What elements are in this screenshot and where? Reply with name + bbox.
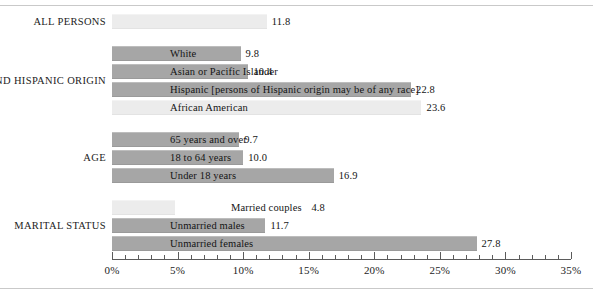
bar-category-label: White	[170, 47, 196, 61]
bar	[112, 200, 175, 215]
bar	[112, 100, 421, 115]
bar-value-label: 10.0	[248, 151, 267, 165]
axis-minor-tick	[269, 255, 270, 259]
axis-minor-tick	[151, 255, 152, 259]
axis-minor-tick	[492, 255, 493, 259]
bar-value-label: 9.7	[244, 133, 258, 147]
group-label: MARITAL STATUS	[14, 220, 106, 232]
bar-value-label: 11.8	[272, 15, 291, 29]
axis-minor-tick	[322, 255, 323, 259]
group-label: RACE AND HISPANIC ORIGIN	[0, 75, 106, 87]
axis-tick-label: 20%	[354, 264, 394, 276]
bar-category-label: Married couples	[231, 201, 302, 215]
axis-tick-label: 10%	[223, 264, 263, 276]
bar-value-label: 4.8	[311, 201, 325, 215]
group-label: AGE	[83, 152, 106, 164]
axis-minor-tick	[217, 255, 218, 259]
axis-major-tick	[178, 252, 179, 259]
axis-tick-label: 15%	[289, 264, 329, 276]
axis-tick-label: 35%	[551, 264, 591, 276]
axis-minor-tick	[387, 255, 388, 259]
bar-category-label: Under 18 years	[170, 169, 236, 183]
bar-value-label: 9.8	[246, 47, 260, 61]
axis-minor-tick	[230, 255, 231, 259]
axis-minor-tick	[164, 255, 165, 259]
bar-row: Unmarried females27.8	[0, 236, 593, 251]
bar-category-label: Unmarried males	[170, 219, 245, 233]
bar-row: White9.8	[0, 46, 593, 61]
axis-major-tick	[309, 252, 310, 259]
axis-minor-tick	[401, 255, 402, 259]
bar-value-label: 10.4	[253, 65, 272, 79]
axis-minor-tick	[335, 255, 336, 259]
bar-chart: 11.8ALL PERSONSWhite9.8Asian or Pacific …	[0, 0, 593, 295]
bar-category-label: Hispanic [persons of Hispanic origin may…	[170, 83, 419, 97]
axis-major-tick	[374, 252, 375, 259]
bar-category-label: Unmarried females	[170, 237, 253, 251]
axis-major-tick	[505, 252, 506, 259]
axis-minor-tick	[453, 255, 454, 259]
bottom-divider-rule	[0, 288, 593, 289]
axis-minor-tick	[427, 255, 428, 259]
axis-major-tick	[571, 252, 572, 259]
bar-category-label: 18 to 64 years	[170, 151, 231, 165]
bar-value-label: 22.8	[416, 83, 435, 97]
axis-minor-tick	[519, 255, 520, 259]
bar	[112, 14, 267, 29]
axis-tick-label: 5%	[158, 264, 198, 276]
axis-minor-tick	[361, 255, 362, 259]
axis-minor-tick	[138, 255, 139, 259]
axis-minor-tick	[545, 255, 546, 259]
axis-minor-tick	[479, 255, 480, 259]
group-label: ALL PERSONS	[33, 16, 106, 28]
axis-tick-label: 30%	[485, 264, 525, 276]
bar-category-label: African American	[170, 101, 248, 115]
axis-major-tick	[112, 252, 113, 259]
bar-row: Under 18 years16.9	[0, 168, 593, 183]
axis-minor-tick	[466, 255, 467, 259]
axis-tick-label: 25%	[420, 264, 460, 276]
axis-minor-tick	[532, 255, 533, 259]
axis-line	[112, 259, 571, 260]
bar-value-label: 23.6	[426, 101, 445, 115]
top-divider-rule	[0, 5, 593, 6]
axis-minor-tick	[125, 255, 126, 259]
bar-row: African American23.6	[0, 100, 593, 115]
bar-value-label: 16.9	[339, 169, 358, 183]
bar-row: 65 years and over9.7	[0, 132, 593, 147]
bar-value-label: 27.8	[482, 237, 501, 251]
bar-category-label: 65 years and over	[170, 133, 247, 147]
axis-minor-tick	[282, 255, 283, 259]
axis-minor-tick	[348, 255, 349, 259]
axis-minor-tick	[558, 255, 559, 259]
axis-minor-tick	[204, 255, 205, 259]
axis-major-tick	[243, 252, 244, 259]
axis-minor-tick	[256, 255, 257, 259]
axis-minor-tick	[296, 255, 297, 259]
axis-major-tick	[440, 252, 441, 259]
axis-tick-label: 0%	[92, 264, 132, 276]
axis-minor-tick	[191, 255, 192, 259]
bar-value-label: 11.7	[270, 219, 289, 233]
axis-minor-tick	[414, 255, 415, 259]
bar-row: Married couples4.8	[0, 200, 593, 215]
bar	[112, 236, 477, 251]
